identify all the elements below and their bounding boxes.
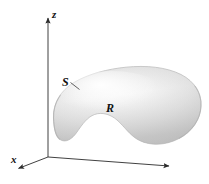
x-axis-label: x — [11, 154, 17, 165]
x-axis-line — [19, 157, 49, 168]
y-axis-line — [48, 157, 169, 166]
solid-blob-group — [53, 66, 201, 144]
surface-label: S — [62, 76, 69, 88]
region-label: R — [106, 102, 114, 114]
figure-canvas — [0, 0, 209, 184]
z-axis-label: z — [52, 9, 56, 20]
figure-3d-solid-region: z x S R — [0, 0, 209, 184]
